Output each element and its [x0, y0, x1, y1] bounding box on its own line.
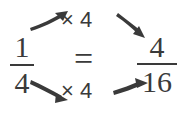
equivalent-fractions-diagram: 1 4 = 4 16 × 4 × 4 [0, 0, 181, 115]
right-fraction: 4 16 [137, 32, 177, 97]
equals-sign: = [74, 42, 93, 76]
left-fraction-denominator: 4 [15, 68, 30, 98]
right-fraction-numerator: 4 [150, 32, 165, 62]
left-fraction-numerator: 1 [15, 32, 30, 63]
left-fraction: 1 4 [10, 32, 34, 98]
right-fraction-denominator: 16 [142, 67, 172, 97]
denominator-operation-label: × 4 [61, 80, 92, 102]
numerator-operation-label: × 4 [61, 9, 92, 31]
